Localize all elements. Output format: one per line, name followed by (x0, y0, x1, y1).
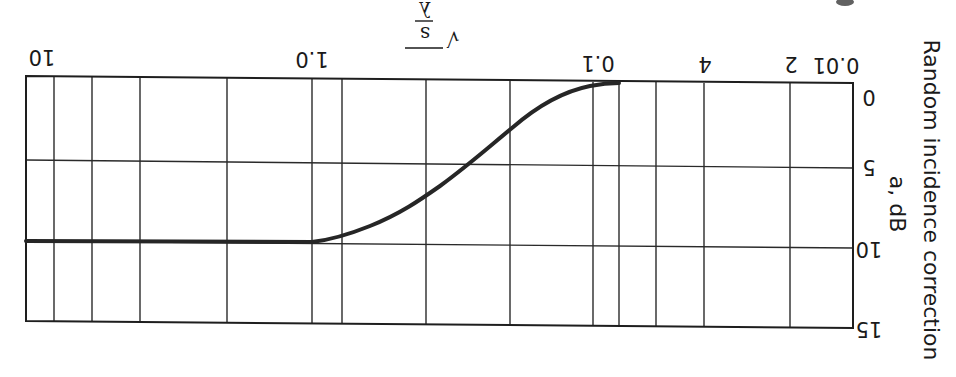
y-tick-5: 5 (862, 155, 875, 179)
vertical-gridlines (54, 76, 790, 328)
random-incidence-correction-chart: 10 1.0 0.1 4 2 0.01 √ s λ 0 5 10 15 Rand… (0, 0, 956, 377)
x-tick-4: 4 (698, 52, 711, 76)
x-label-numerator: s (420, 22, 430, 46)
y-tick-labels: 0 5 10 15 (856, 85, 883, 341)
x-axis-label: √ s λ (405, 0, 459, 51)
cropped-glyph-fragment (836, 0, 854, 6)
y-tick-15: 15 (856, 317, 883, 341)
y-tick-0: 0 (862, 85, 875, 109)
y-tick-10: 10 (856, 237, 883, 261)
x-tick-1-0: 1.0 (295, 47, 328, 71)
x-tick-10: 10 (29, 45, 56, 69)
y-axis-title: Random incidence correction (919, 40, 944, 361)
horizontal-gridlines (26, 160, 853, 248)
x-label-denominator: λ (418, 0, 431, 21)
x-tick-2: 2 (784, 52, 797, 76)
x-tick-0-01: 0.01 (813, 53, 860, 77)
y-axis-units: a, dB (885, 176, 910, 233)
x-label-radical: √ (446, 27, 459, 51)
x-tick-labels: 10 1.0 0.1 4 2 0.01 (29, 45, 860, 77)
x-tick-0-1: 0.1 (581, 51, 614, 75)
plot-frame (26, 76, 853, 328)
